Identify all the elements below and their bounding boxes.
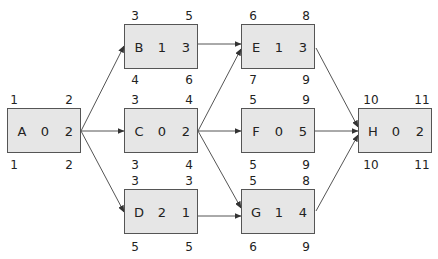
node-f-lf: 9 [302,159,310,171]
node-c-slack: 0 [158,124,166,137]
node-d-ls: 5 [131,241,139,253]
node-b-ef: 5 [185,10,193,22]
node-a-duration: 2 [65,124,73,137]
node-e-ls: 7 [249,74,257,86]
node-e-lf: 9 [302,74,310,86]
node-e-name: E [252,40,260,53]
edge-c-e [198,49,241,131]
node-a-ls: 1 [10,159,18,171]
node-h-slack: 0 [392,124,400,137]
node-e: E 1 3 [241,24,315,69]
edge-a-d [81,131,124,212]
node-g-slack: 1 [275,205,283,218]
node-g-ef: 8 [302,175,310,187]
node-b-slack: 1 [158,40,166,53]
node-b-es: 3 [131,10,139,22]
node-d-ef: 3 [185,175,193,187]
node-e-ef: 8 [302,10,310,22]
node-h-duration: 2 [416,124,424,137]
node-c-name: C [134,124,143,137]
network-diagram: 1 2 A 0 2 1 2 3 5 B 1 3 4 6 3 4 C 0 2 3 … [0,0,438,259]
node-d-name: D [134,205,144,218]
node-a-name: A [18,124,27,137]
node-d-duration: 1 [182,205,190,218]
node-g-ls: 6 [249,241,257,253]
node-d-slack: 2 [158,205,166,218]
edge-g-h [316,135,358,211]
node-c-ef: 4 [185,94,193,106]
node-h-ls: 10 [363,159,378,171]
node-h-ef: 11 [414,94,429,106]
node-c-ls: 3 [131,159,139,171]
node-h-es: 10 [363,94,378,106]
node-b: B 1 3 [124,24,198,69]
node-d-es: 3 [131,175,139,187]
node-e-slack: 1 [275,40,283,53]
node-g-duration: 4 [299,205,307,218]
node-g-name: G [251,205,261,218]
node-c-lf: 4 [185,159,193,171]
node-g-es: 5 [249,175,257,187]
node-f: F 0 5 [241,108,315,153]
node-a-lf: 2 [65,159,73,171]
node-g: G 1 4 [241,189,315,234]
node-a-es: 1 [10,94,18,106]
node-f-duration: 5 [299,124,307,137]
node-e-duration: 3 [299,40,307,53]
node-d-lf: 5 [185,241,193,253]
edge-a-b [81,46,124,131]
node-f-es: 5 [249,94,257,106]
node-a-ef: 2 [65,94,73,106]
edge-e-h [316,48,358,127]
node-e-es: 6 [249,10,257,22]
node-b-ls: 4 [131,74,139,86]
node-f-ef: 9 [302,94,310,106]
node-a-slack: 0 [41,124,49,137]
node-g-lf: 9 [302,241,310,253]
edge-c-g [198,131,241,208]
node-b-name: B [135,40,144,53]
node-h: H 0 2 [358,108,432,153]
node-f-name: F [252,124,259,137]
node-h-name: H [368,124,378,137]
node-a: A 0 2 [7,108,81,153]
node-b-lf: 6 [185,74,193,86]
node-c-es: 3 [131,94,139,106]
node-d: D 2 1 [124,189,198,234]
node-c: C 0 2 [124,108,198,153]
node-f-slack: 0 [275,124,283,137]
node-h-lf: 11 [414,159,429,171]
node-c-duration: 2 [182,124,190,137]
node-f-ls: 5 [249,159,257,171]
node-b-duration: 3 [182,40,190,53]
